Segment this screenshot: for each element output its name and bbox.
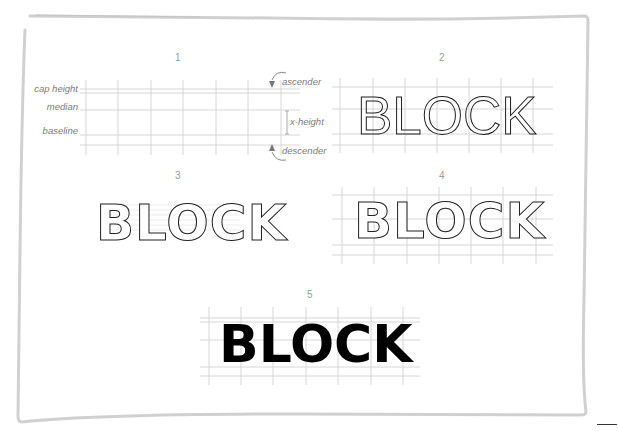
panel-number-3: 3	[175, 170, 181, 181]
block-word-outline-grid: BLOCK	[354, 196, 545, 246]
panel-number-4: 4	[439, 170, 445, 181]
panel-number-2: 2	[439, 52, 445, 63]
panel-number-5: 5	[307, 289, 313, 300]
label-baseline: baseline	[43, 125, 78, 136]
label-median: median	[47, 101, 78, 112]
block-word-skeleton: BLOCK	[357, 89, 537, 142]
panel-1-grid	[80, 80, 300, 155]
x-height-bracket	[285, 111, 289, 134]
label-ascender: ascender	[282, 76, 321, 87]
panel-number-1: 1	[175, 52, 181, 63]
label-x-height: x-height	[290, 116, 324, 127]
label-cap-height: cap height	[34, 83, 78, 94]
scale-bar	[597, 424, 617, 425]
block-word-outline: BLOCK	[96, 198, 287, 248]
block-word-filled: BLOCK	[219, 318, 413, 370]
label-descender: descender	[282, 145, 326, 156]
